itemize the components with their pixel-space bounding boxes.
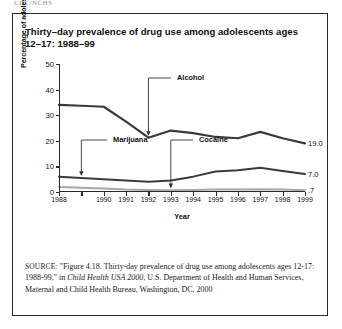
x-tick-label: 1997 [252,196,268,203]
line-chart: Percentage of adolescents ages 12–17 010… [23,60,319,232]
x-tick-label: 1999 [297,196,313,203]
plot-area: 01020304050 1988199019911992199319941995… [59,64,305,192]
end-label-marijuana: 7.0 [308,170,319,179]
source-note: SOURCE: "Figure 4.18. Thirty-day prevale… [25,261,317,295]
x-tick [305,192,306,196]
page-running-header: CDC/NCHS [14,0,134,9]
x-tick [238,192,239,196]
y-tick-label: 50 [46,60,54,69]
y-axis-title: Percentage of adolescents ages 12–17 [19,0,31,68]
x-axis-title: Year [59,212,305,221]
x-tick [193,192,194,196]
x-tick [260,192,261,196]
source-divider [25,254,317,255]
source-label: SOURCE: [25,262,58,271]
x-tick-label: 1991 [118,196,134,203]
y-tick-label: 30 [46,111,54,120]
x-tick [283,192,284,196]
x-tick [126,192,127,196]
y-tick-label: 20 [46,136,54,145]
leader-line-marijuana [81,140,107,175]
x-tick-label: 1998 [275,196,291,203]
annotation-label-cocaine: Cocaine [199,135,228,144]
end-label-cocaine: .7 [308,186,314,195]
leader-line-cocaine [171,140,193,187]
annotation-label-marijuana: Marijuana [113,135,148,144]
x-tick [216,192,217,196]
x-tick [81,192,82,196]
x-tick [104,192,105,196]
arrowhead-cocaine [169,184,173,189]
x-tick-label: 1988 [51,196,67,203]
y-tick-label: 40 [46,85,54,94]
x-tick [59,192,60,196]
arrowhead-marijuana [79,171,83,176]
x-tick-label: 1990 [96,196,112,203]
x-tick [171,192,172,196]
annotation-leaders [59,64,342,192]
end-label-alcohol: 19.0 [308,139,323,148]
x-tick-label: 1993 [163,196,179,203]
figure-box: Thirty–day prevalence of drug use among … [12,13,328,316]
leader-line-alcohol [148,78,171,135]
x-tick-label: 1992 [141,196,157,203]
source-publication-title: Child Health USA 2000 [67,273,143,282]
x-tick-label: 1994 [185,196,201,203]
y-tick-label: 10 [46,162,54,171]
figure-title: Thirty–day prevalence of drug use among … [25,26,315,50]
figure-page: CDC/NCHS Thirty–day prevalence of drug u… [0,0,342,329]
annotation-label-alcohol: Alcohol [177,73,204,82]
x-tick [148,192,149,196]
x-tick-label: 1995 [208,196,224,203]
x-tick-label: 1996 [230,196,246,203]
